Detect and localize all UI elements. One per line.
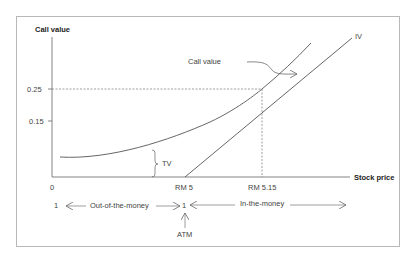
y-axis-label: Call value <box>35 26 70 34</box>
x-axis-label: Stock price <box>354 174 394 182</box>
x-tick-rm515: RM 5.15 <box>248 184 276 192</box>
tv-brace <box>152 150 158 177</box>
call-value-pointer <box>247 62 297 74</box>
out-of-the-money-label: Out-of-the-money <box>90 202 149 210</box>
tv-label: TV <box>162 160 172 168</box>
left-marker: 1 <box>54 202 58 210</box>
iv-label: IV <box>355 33 362 41</box>
y-tick-0-25: 0.25 <box>27 86 42 94</box>
y-tick-0-15: 0.15 <box>29 118 44 126</box>
in-the-money-label: In-the-money <box>240 200 284 208</box>
call-value-label: Call value <box>188 58 221 66</box>
x-tick-rm5: RM 5 <box>175 184 193 192</box>
call-value-curve <box>60 43 311 157</box>
x-tick-0: 0 <box>50 184 54 192</box>
atm-label: ATM <box>177 231 192 239</box>
option-value-diagram <box>0 0 411 258</box>
center-marker: 1 <box>182 202 186 210</box>
